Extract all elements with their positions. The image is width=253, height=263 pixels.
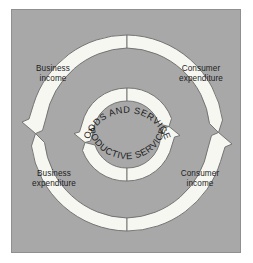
outer-ring-right-upper-arc [127,35,223,133]
outer-ring-left-arc [22,35,127,134]
circular-flow-diagram: GOODS AND SERVICES PRODUCTIVE SERVICES [0,0,253,263]
outer-ring-group [22,35,232,231]
diagram-canvas: GOODS AND SERVICES PRODUCTIVE SERVICES B… [0,0,253,263]
